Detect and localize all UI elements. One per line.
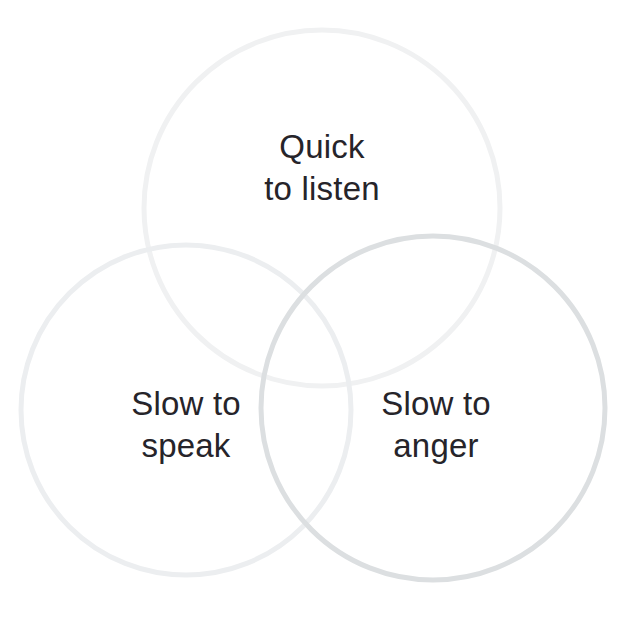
venn-circles-canvas [0, 0, 635, 628]
venn-diagram: Quick to listen Slow to speak Slow to an… [0, 0, 635, 628]
venn-label-slow-to-anger: Slow to anger [306, 383, 566, 466]
venn-label-quick-to-listen: Quick to listen [192, 126, 452, 209]
venn-label-slow-to-speak: Slow to speak [56, 383, 316, 466]
